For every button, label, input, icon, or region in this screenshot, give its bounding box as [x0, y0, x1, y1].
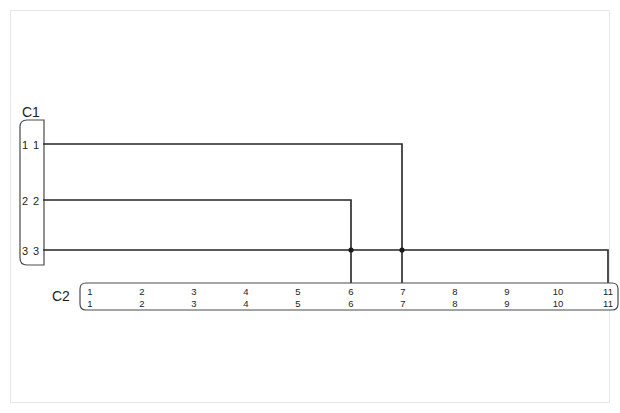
diagram-canvas: C1 1 1 2 2 3 3 C2 1 1 2: [0, 0, 620, 413]
connector-c2-pin-2-bottom: 2: [139, 298, 144, 309]
connector-c2-pin-4-top: 4: [243, 286, 248, 297]
connector-c2[interactable]: C2 1 1 2 2 3 3 4 4 5 5 6 6 7 7 8: [52, 283, 618, 310]
connector-c2-pin-2-top: 2: [139, 286, 144, 297]
connector-c2-pin-6-top: 6: [348, 286, 353, 297]
connector-c1[interactable]: C1 1 1 2 2 3 3: [20, 104, 44, 265]
connector-c2-pin-10-bottom: 10: [553, 298, 564, 309]
connector-c1-pin-1-bottom: 1: [33, 139, 39, 151]
connector-c1-label: C1: [22, 104, 40, 120]
wire-c1p3-to-c2p11[interactable]: [44, 250, 608, 286]
connector-c2-pin-1-bottom: 1: [87, 298, 92, 309]
connector-c2-pin-8-top: 8: [452, 286, 457, 297]
connector-c2-pin-11-top: 11: [603, 286, 613, 297]
connector-c2-pin-5-bottom: 5: [295, 298, 300, 309]
wire-c1p2-to-c2p6[interactable]: [44, 200, 351, 286]
connector-c2-pin-3-top: 3: [191, 286, 196, 297]
connector-c2-pin-8-bottom: 8: [452, 298, 457, 309]
connector-c2-pin-9-top: 9: [504, 286, 509, 297]
connector-c2-label: C2: [52, 288, 70, 304]
connector-c2-pin-11-bottom: 11: [603, 298, 613, 309]
wire-c1p1-to-c2p7[interactable]: [44, 144, 402, 286]
connector-c1-pin-2-bottom: 2: [33, 195, 39, 207]
connector-c2-pin-10-top: 10: [553, 286, 564, 297]
connector-c2-pin-7-top: 7: [400, 286, 405, 297]
connector-c2-pin-3-bottom: 3: [191, 298, 196, 309]
junction-c2p6-crossing: [348, 247, 353, 252]
wiring-diagram: C1 1 1 2 2 3 3 C2 1 1 2: [0, 0, 620, 413]
connector-c2-pin-6-bottom: 6: [348, 298, 353, 309]
junction-c2p7-crossing: [399, 247, 404, 252]
connector-c1-pin-1-top: 1: [22, 139, 28, 151]
connector-c2-pin-1-top: 1: [87, 286, 92, 297]
connector-c1-pin-3-top: 3: [22, 245, 28, 257]
connector-c2-pin-5-top: 5: [295, 286, 300, 297]
connector-c2-pin-4-bottom: 4: [243, 298, 248, 309]
connector-c2-pin-9-bottom: 9: [504, 298, 509, 309]
connector-c2-pin-7-bottom: 7: [400, 298, 405, 309]
connector-c1-pin-3-bottom: 3: [33, 245, 39, 257]
connector-c1-pin-2-top: 2: [22, 195, 28, 207]
